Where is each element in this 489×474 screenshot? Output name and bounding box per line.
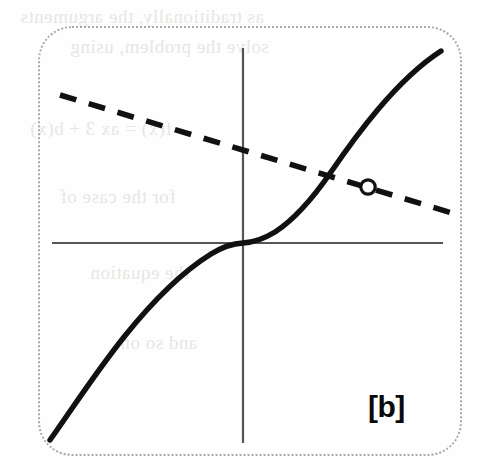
- plot-canvas: [0, 0, 489, 474]
- intersection-point-marker: [361, 180, 375, 194]
- panel-label: [b]: [368, 392, 405, 422]
- cubic-curve: [50, 51, 441, 440]
- dashed-line: [60, 95, 452, 213]
